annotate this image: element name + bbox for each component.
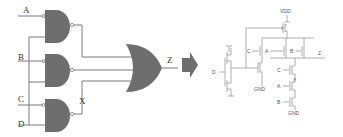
nmos-label-a: A: [277, 83, 281, 89]
vdd-label: VDD: [280, 8, 291, 14]
gate-level-circuit: A B C D: [18, 5, 178, 132]
cmos-label-d: D: [212, 69, 216, 75]
gnd-label-1: GND: [254, 86, 266, 92]
cmos-output-z: Z: [318, 50, 321, 56]
nand-gate-2: [42, 54, 74, 87]
pmos-label-c: C: [247, 48, 251, 54]
wire-nand1-out: [74, 25, 133, 57]
nmos-label-b: B: [277, 99, 281, 105]
input-label-c: C: [18, 94, 24, 104]
nand-gate-3: [42, 99, 74, 132]
pmos-label-a: A: [265, 48, 269, 54]
node-label-x: X: [79, 96, 86, 106]
gnd-label-2: GND: [288, 110, 300, 116]
input-label-a: A: [23, 5, 30, 15]
nmos-label-c: C: [277, 67, 281, 73]
conversion-arrow-icon: [182, 52, 198, 78]
or-gate: [126, 44, 162, 92]
output-label-z: Z: [167, 55, 173, 65]
pmos-label-b: B: [290, 48, 294, 54]
input-label-d: D: [18, 119, 25, 129]
logic-diagram: A B C D: [0, 0, 343, 137]
nand-gate-1: [42, 10, 74, 43]
transistor-level-circuit: D VDD C: [212, 8, 325, 116]
